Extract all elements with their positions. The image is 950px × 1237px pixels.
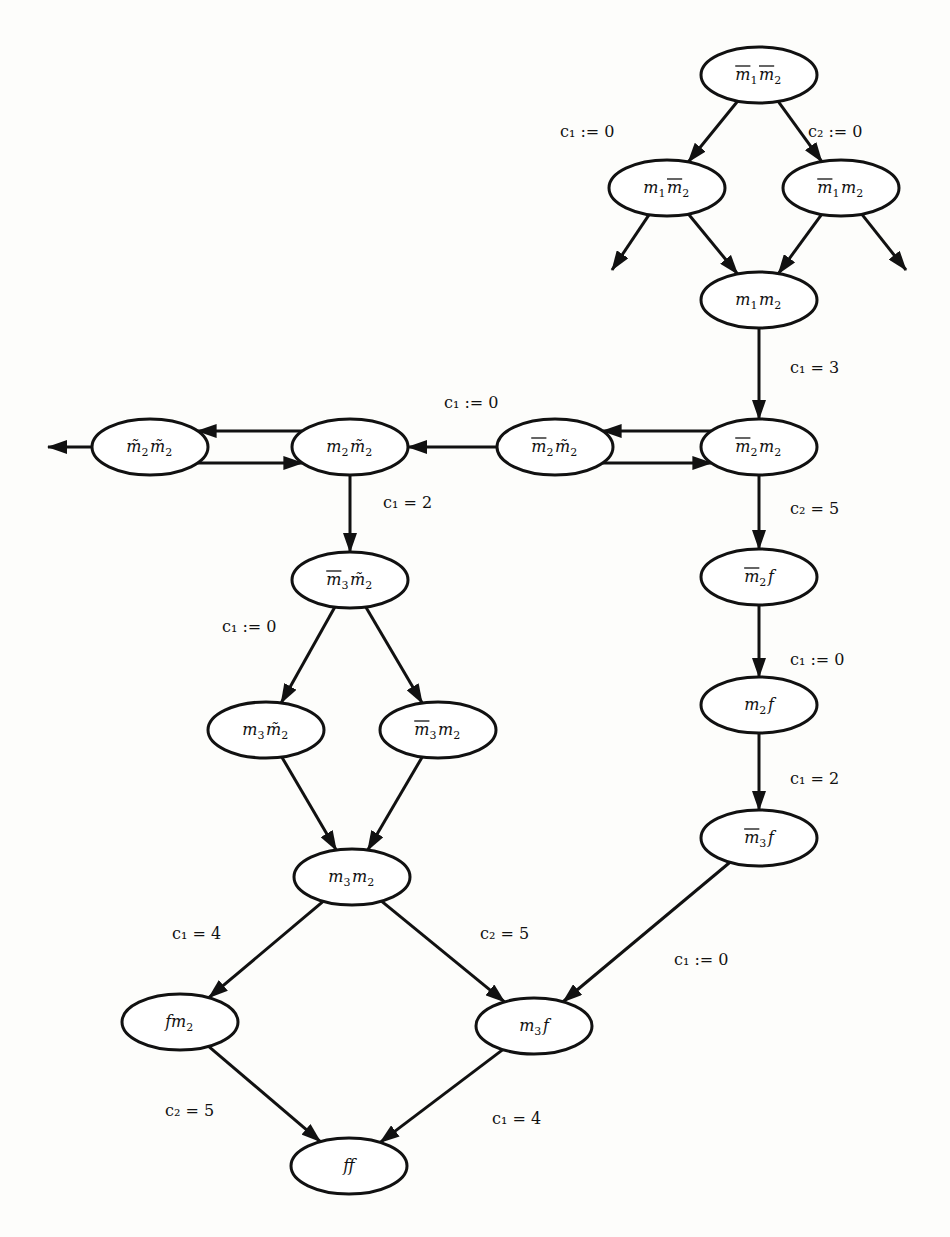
state-node-n17: m3 f	[476, 998, 592, 1054]
state-node-n4: m1 m2	[701, 272, 817, 328]
edges-layer	[48, 101, 906, 1142]
state-node-n2: m1 m2	[609, 160, 725, 216]
edge-label: c₁ := 0	[790, 650, 845, 669]
edge-n2-to-n4	[688, 214, 737, 274]
state-graph-diagram: m1 m2 m1 m2 m1 m2 m1 m2 m2 m2 m2 m̃2 m2 …	[0, 0, 950, 1237]
edge-n2-to-stub-left-2	[612, 215, 649, 270]
edge-label: c₁ := 0	[560, 122, 615, 141]
edge-label: c₁ := 0	[674, 950, 729, 969]
edge-n10-to-n12	[282, 757, 336, 850]
edge-label: c₂ := 0	[808, 122, 863, 141]
state-node-n18: ff	[291, 1138, 407, 1194]
state-node-n7: m2 m̃2	[292, 419, 408, 475]
edge-n9-to-n11	[366, 607, 422, 703]
edge-label: c₁ = 4	[172, 924, 221, 943]
edge-label: c₁ = 2	[383, 493, 432, 512]
edge-label: c₁ = 2	[790, 769, 839, 788]
state-node-n6: m2 m̃2	[497, 419, 613, 475]
edge-n3-to-n4	[778, 214, 821, 273]
state-node-n16: fm2	[122, 994, 238, 1050]
edge-n16-to-n18	[209, 1046, 321, 1141]
edge-n12-to-n17	[381, 901, 504, 1002]
state-node-n13: m2 f	[701, 549, 817, 605]
state-node-n10: m3 m̃2	[208, 702, 324, 758]
edge-n1-to-n2	[688, 101, 738, 162]
edge-n17-to-n18	[380, 1050, 503, 1143]
edge-label: c₂ = 5	[480, 924, 529, 943]
edge-label: c₂ = 5	[165, 1101, 214, 1120]
edge-n3-to-stub-right-3	[862, 214, 906, 270]
edge-label: c₁ = 4	[492, 1109, 541, 1128]
edge-label: c₁ := 0	[444, 393, 499, 412]
state-node-n14: m2 f	[701, 677, 817, 733]
state-node-n3: m1 m2	[783, 160, 899, 216]
state-node-n1: m1 m2	[701, 47, 817, 103]
edge-n12-to-n16	[209, 901, 323, 997]
edge-n15-to-n17	[563, 862, 730, 1002]
edge-label: c₁ := 0	[222, 617, 277, 636]
state-node-n12: m3 m2	[294, 849, 410, 905]
nodes-layer: m1 m2 m1 m2 m1 m2 m1 m2 m2 m2 m2 m̃2 m2 …	[92, 47, 899, 1194]
state-node-n5: m2 m2	[701, 419, 817, 475]
state-node-n9: m3 m̃2	[292, 552, 408, 608]
edge-n11-to-n12	[368, 757, 422, 850]
edge-n9-to-n10	[281, 607, 335, 703]
state-node-n11: m3 m2	[380, 702, 496, 758]
edge-label: c₂ = 5	[790, 499, 839, 518]
edge-label: c₁ = 3	[790, 358, 839, 377]
state-node-n8: m̃2 m̃2	[92, 419, 208, 475]
state-node-n15: m3 f	[701, 810, 817, 866]
